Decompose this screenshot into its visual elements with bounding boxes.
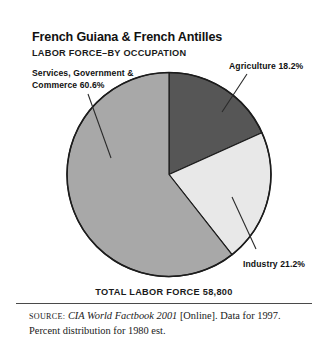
source-label: SOURCE:	[29, 312, 65, 321]
source-note: SOURCE: CIA World Factbook 2001 [Online]…	[29, 309, 297, 337]
slice-label-agriculture: Agriculture 18.2%	[229, 61, 303, 73]
total-labor-force-caption: TOTAL LABOR FORCE 58,800	[0, 287, 328, 297]
pie-chart-figure: French Guiana & French Antilles LABOR FO…	[0, 0, 328, 359]
slice-label-services-line2: Commerce 60.6%	[32, 80, 105, 90]
source-work-title: CIA World Factbook 2001	[68, 310, 177, 321]
slice-label-services: Services, Government &Commerce 60.6%	[32, 68, 134, 91]
slice-label-industry: Industry 21.2%	[243, 259, 305, 271]
pie-graphic	[0, 0, 328, 359]
slice-label-services-line1: Services, Government &	[32, 68, 134, 78]
source-divider	[16, 303, 312, 304]
